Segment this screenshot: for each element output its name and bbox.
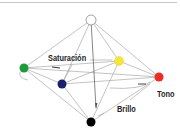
saturation-arrow <box>52 67 60 68</box>
brightness-axis <box>91 20 96 108</box>
brightness-label: Brillo <box>117 104 136 114</box>
diagram-canvas <box>0 0 180 131</box>
yellow-node <box>115 57 124 66</box>
saturation-label: Saturación <box>48 53 86 63</box>
hue-label: Tono <box>157 89 174 99</box>
color-solid-diagram: Saturación Tono Brillo <box>0 0 180 131</box>
edges <box>20 20 159 122</box>
black-node <box>87 118 96 127</box>
white-node <box>86 15 96 25</box>
navy-node <box>58 80 67 89</box>
green-node <box>20 64 29 73</box>
red-node <box>155 73 164 82</box>
